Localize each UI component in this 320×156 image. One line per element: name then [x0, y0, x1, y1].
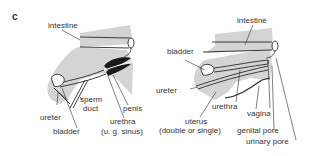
- label-urethra-female: urethra: [212, 102, 237, 111]
- label-genital-pore: genital pore: [237, 126, 279, 135]
- label-vagina: vagina: [247, 109, 271, 118]
- label-ureter-male: ureter: [40, 113, 61, 122]
- label-penis: penis: [123, 104, 142, 113]
- label-urethra-male-line2: (u. g. sinus): [101, 127, 143, 136]
- label-urinary-pore: urinary pore: [246, 137, 289, 146]
- label-uterus-line1: uterus: [185, 117, 207, 126]
- label-bladder-male: bladder: [53, 127, 80, 136]
- label-uterus-line2: (double or single): [159, 126, 221, 135]
- label-intestine-female: intestine: [237, 16, 267, 25]
- label-urethra-male-line1: urethra: [110, 117, 135, 126]
- label-intestine-male: intestine: [48, 21, 78, 30]
- label-bladder-female: bladder: [167, 47, 194, 56]
- label-ureter-female: ureter: [156, 86, 177, 95]
- label-sperm-duct-line1: sperm: [80, 95, 102, 104]
- label-sperm-duct-line2: duct: [83, 104, 98, 113]
